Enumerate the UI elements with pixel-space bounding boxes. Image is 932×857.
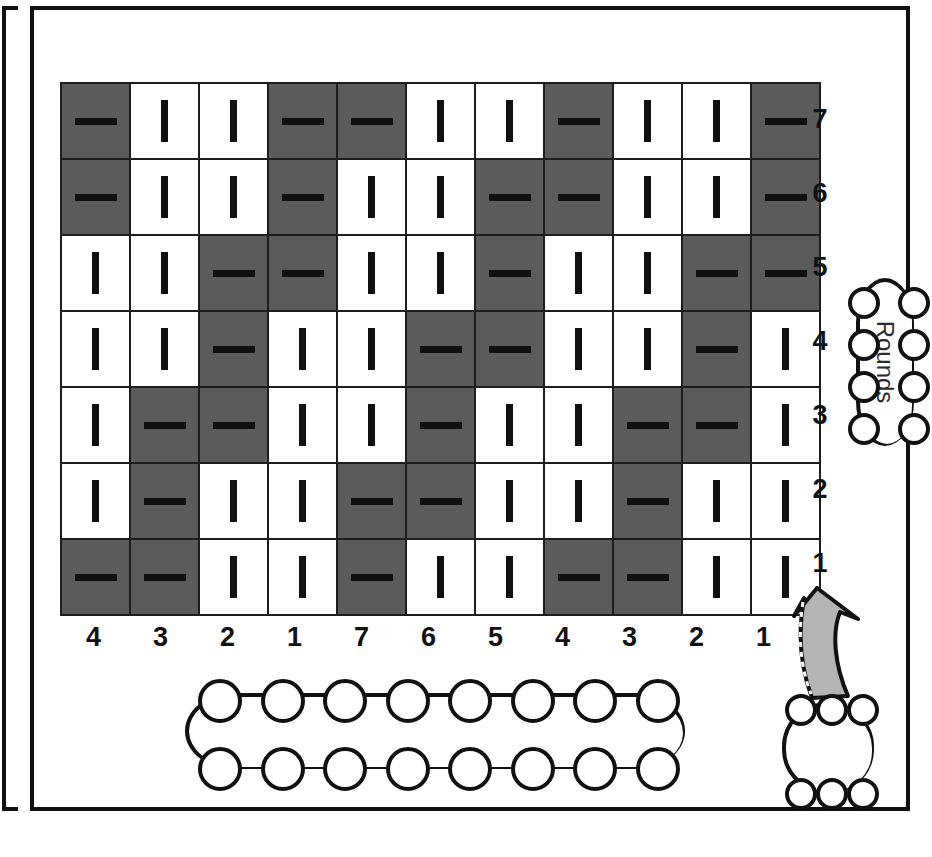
chart-cell-purl[interactable] [682,235,751,311]
chart-cell-knit[interactable] [268,539,337,615]
chart-cell-purl[interactable] [337,463,406,539]
chart-cell-knit[interactable] [61,311,130,387]
cloud-bump [636,747,680,791]
chart-cell-purl[interactable] [199,235,268,311]
chart-cell-knit[interactable] [406,539,475,615]
knit-symbol-icon [575,404,582,446]
chart-cell-purl[interactable] [475,235,544,311]
chart-cell-purl[interactable] [61,539,130,615]
chart-cell-knit[interactable] [475,387,544,463]
chart-cell-purl[interactable] [682,311,751,387]
chart-cell-knit[interactable] [61,463,130,539]
chart-cell-knit[interactable] [130,83,199,159]
knit-symbol-icon [368,176,375,218]
chart-cell-purl[interactable] [475,159,544,235]
knit-symbol-icon [299,556,306,598]
round-label: 2 [802,452,838,526]
chart-cell-knit[interactable] [613,311,682,387]
knit-symbol-icon [230,480,237,522]
knit-symbol-icon [299,328,306,370]
chart-cell-knit[interactable] [199,159,268,235]
chart-cell-knit[interactable] [130,159,199,235]
cloud-bump [848,329,880,361]
purl-symbol-icon [282,118,324,125]
chart-cell-purl[interactable] [475,311,544,387]
chart-cell-purl[interactable] [268,83,337,159]
chart-cell-purl[interactable] [613,387,682,463]
chart-cell-purl[interactable] [61,83,130,159]
chart-cell-purl[interactable] [130,539,199,615]
chart-cell-purl[interactable] [613,463,682,539]
chart-cell-knit[interactable] [268,463,337,539]
chart-cell-purl[interactable] [406,311,475,387]
chart-cell-knit[interactable] [268,311,337,387]
chart-cell-purl[interactable] [544,539,613,615]
knit-symbol-icon [437,176,444,218]
chart-cell-knit[interactable] [130,235,199,311]
knit-symbol-icon [575,480,582,522]
cloud-bump [261,747,305,791]
chart-cell-knit[interactable] [613,83,682,159]
chart-cell-knit[interactable] [337,311,406,387]
chart-cell-knit[interactable] [475,539,544,615]
chart-cell-knit[interactable] [268,387,337,463]
stitch-label: 7 [328,622,395,653]
knit-symbol-icon [506,100,513,142]
knit-symbol-icon [506,556,513,598]
chart-cell-knit[interactable] [475,463,544,539]
chart-cell-knit[interactable] [682,539,751,615]
chart-cell-purl[interactable] [130,463,199,539]
knit-symbol-icon [161,100,168,142]
chart-cell-knit[interactable] [61,387,130,463]
chart-cell-knit[interactable] [544,463,613,539]
chart-cell-purl[interactable] [544,83,613,159]
knit-symbol-icon [782,404,789,446]
knit-symbol-icon [437,100,444,142]
chart-row [61,463,820,539]
chart-cell-purl[interactable] [61,159,130,235]
purl-symbol-icon [213,422,255,429]
chart-cell-purl[interactable] [199,387,268,463]
chart-cell-knit[interactable] [61,235,130,311]
chart-cell-knit[interactable] [613,159,682,235]
chart-cell-purl[interactable] [613,539,682,615]
chart-cell-purl[interactable] [337,83,406,159]
cloud-bump [573,747,617,791]
chart-cell-knit[interactable] [337,159,406,235]
chart-cell-knit[interactable] [544,235,613,311]
chart-cell-purl[interactable] [130,387,199,463]
purl-symbol-icon [420,346,462,353]
chart-cell-knit[interactable] [337,387,406,463]
chart-cell-knit[interactable] [682,83,751,159]
chart-cell-knit[interactable] [199,463,268,539]
chart-cell-knit[interactable] [199,83,268,159]
chart-cell-knit[interactable] [337,235,406,311]
chart-cell-purl[interactable] [406,387,475,463]
cloud-bump [323,679,367,723]
chart-cell-purl[interactable] [544,159,613,235]
chart-cell-knit[interactable] [475,83,544,159]
knit-symbol-icon [575,252,582,294]
chart-cell-purl[interactable] [337,539,406,615]
chart-cell-knit[interactable] [682,463,751,539]
chart-cell-purl[interactable] [199,311,268,387]
chart-cell-knit[interactable] [544,311,613,387]
chart-cell-purl[interactable] [268,235,337,311]
chart-cell-knit[interactable] [406,159,475,235]
chart-cell-purl[interactable] [682,387,751,463]
chart-cell-purl[interactable] [268,159,337,235]
chart-cell-purl[interactable] [406,463,475,539]
chart-cell-knit[interactable] [199,539,268,615]
cloud-bump [261,679,305,723]
chart-cell-knit[interactable] [682,159,751,235]
chart-cell-knit[interactable] [130,311,199,387]
chart-cell-knit[interactable] [613,235,682,311]
purl-symbol-icon [282,194,324,201]
stitch-chart-grid [60,82,821,616]
purl-symbol-icon [558,118,600,125]
chart-cell-knit[interactable] [406,235,475,311]
knit-symbol-icon [506,404,513,446]
chart-cell-knit[interactable] [544,387,613,463]
chart-cell-knit[interactable] [406,83,475,159]
stitches-caption-callout: Stitches: a multiple of 7 plus 4 [185,693,685,769]
